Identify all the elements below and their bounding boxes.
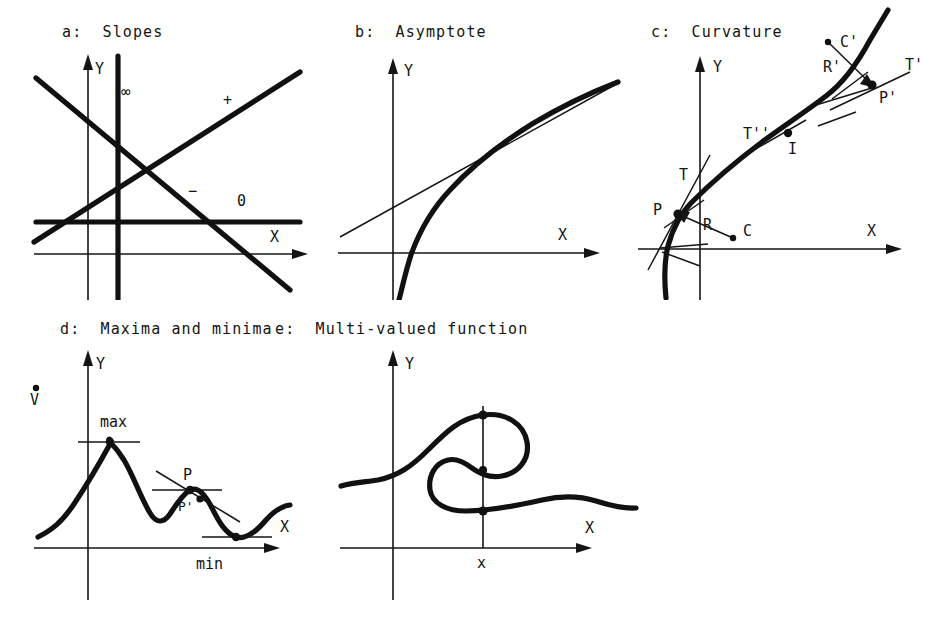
curve-point-p — [673, 209, 682, 218]
y-axis-label-d: Y — [96, 355, 105, 373]
x-axis-c — [638, 244, 902, 254]
radius-r-prime-label-c: R' — [823, 58, 841, 76]
panel-e-multivalued: e: Multi-valued function Y X x — [280, 300, 680, 626]
panel-c-plot — [620, 0, 942, 300]
curvature-curve — [665, 10, 888, 298]
panel-a-slopes: a: Slopes Y X ∞ + − 0 — [0, 0, 320, 300]
negative-slope-label: − — [188, 182, 197, 200]
minimum-label: min — [196, 555, 223, 573]
tangent-t2-label-c: T'' — [743, 125, 770, 143]
x-axis-e — [340, 543, 592, 553]
y-axis-a — [83, 54, 93, 300]
panel-c-title: c: Curvature — [651, 23, 783, 41]
x-axis-label-a: X — [270, 228, 279, 246]
v-dot-label: V — [30, 391, 39, 409]
maxima-minima-curve — [38, 439, 290, 537]
zero-slope-label: 0 — [237, 192, 246, 210]
centre-of-curvature-c-prime — [825, 39, 831, 45]
y-axis-label-e: Y — [405, 355, 414, 373]
panel-c-curvature: c: Curvature — [620, 0, 942, 300]
point-p-label-c: P — [653, 201, 662, 219]
point-p-label-d: P — [183, 466, 192, 484]
x-value-label-e: x — [477, 554, 486, 572]
inflection-i-label-c: I — [788, 140, 797, 158]
x-axis-label-c: X — [867, 222, 876, 240]
maximum-label: max — [100, 413, 127, 431]
y-axis-label-b: Y — [404, 62, 413, 80]
multivalued-curve-path — [341, 415, 636, 511]
tangent-tick-pp-3 — [818, 112, 856, 126]
x-axis-label-b: X — [558, 226, 567, 244]
figure-canvas: a: Slopes Y X ∞ + − 0 — [0, 0, 942, 626]
x-axis-b — [338, 248, 600, 258]
tangent-t-label-c: T — [679, 166, 688, 184]
x-axis-d — [34, 543, 280, 553]
centre-of-curvature-c — [730, 235, 736, 241]
intersection-point-top — [478, 410, 487, 419]
y-axis-c — [695, 56, 705, 300]
line-positive-slope — [34, 72, 300, 242]
panel-b-asymptote: b: Asymptote Y X — [300, 0, 630, 300]
panel-a-title: a: Slopes — [62, 23, 163, 41]
x-axis-label-e: X — [585, 519, 594, 537]
panel-b-title: b: Asymptote — [355, 23, 487, 41]
tangent-t-prime-label-c: T' — [905, 56, 923, 74]
point-p-prime-label-d: P' — [178, 499, 194, 514]
line-negative-slope — [36, 78, 290, 290]
panel-b-plot — [300, 0, 630, 300]
curve-point-p-prime — [867, 80, 876, 89]
panel-a-plot — [0, 0, 320, 300]
panel-e-plot — [280, 300, 680, 626]
panel-e-title: e: Multi-valued function — [275, 320, 528, 338]
maximum-point — [106, 438, 114, 446]
infinity-slope-label: ∞ — [121, 82, 131, 101]
y-axis-label-a: Y — [95, 60, 104, 78]
minimum-point — [232, 533, 240, 541]
inflection-point-p-prime — [196, 495, 203, 502]
point-p-prime-label-c: P' — [879, 89, 897, 107]
positive-slope-label: + — [223, 91, 232, 109]
center-c-label-c: C — [743, 222, 752, 240]
inflection-point-i — [784, 129, 792, 137]
x-axis-a — [34, 249, 308, 259]
intersection-point-bottom — [478, 506, 487, 515]
y-axis-label-c: Y — [713, 58, 722, 76]
intersection-point-middle — [479, 466, 487, 474]
panel-d-title: d: Maxima and minima — [60, 320, 273, 338]
center-c-prime-label-c: C' — [840, 33, 858, 51]
y-axis-b — [388, 58, 398, 300]
asymptotic-curve — [399, 82, 618, 300]
radius-r-label-c: R — [703, 216, 712, 234]
